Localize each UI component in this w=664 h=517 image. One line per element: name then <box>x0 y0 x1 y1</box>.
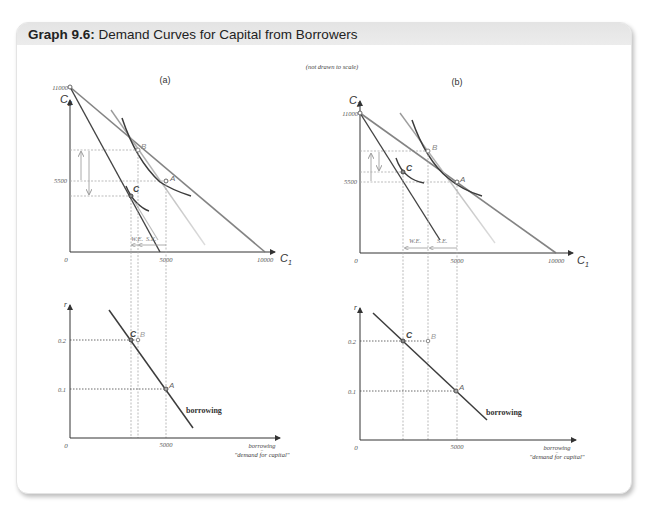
panel-b-label: (b) <box>452 77 463 87</box>
point-c <box>401 170 405 174</box>
borrowing-curve-label: borrowing <box>186 406 222 415</box>
label-a: A <box>169 174 175 183</box>
budget-line-high-rate <box>70 87 160 252</box>
label-c: C <box>130 329 137 339</box>
tick-0.1: 0.1 <box>348 388 356 395</box>
label-c: C <box>406 163 413 173</box>
tick-0: 0 <box>354 257 358 265</box>
tick-0.2: 0.2 <box>58 337 67 344</box>
point-c <box>401 339 405 343</box>
borrowing-curve-label: borrowing <box>486 408 522 417</box>
not-to-scale-note: (not drawn to scale) <box>306 63 359 71</box>
tick-5500: 5500 <box>54 177 68 184</box>
panel-a-label: (a) <box>160 75 171 85</box>
x-axis-label-demand: "demand for capital" <box>530 453 585 460</box>
label-b: B <box>140 330 145 339</box>
point-c <box>129 194 133 198</box>
tick-10000: 10000 <box>548 257 565 264</box>
point-a <box>164 387 168 391</box>
wealth-effect-label: W.E. <box>131 235 143 242</box>
tick-11000: 11000 <box>52 84 69 91</box>
borrowing-demand-curve <box>109 310 193 428</box>
point-a <box>454 389 458 393</box>
point-a <box>455 180 459 184</box>
point-a <box>164 179 168 183</box>
compensated-budget-line <box>111 110 205 245</box>
panel-b-bottom: r 0.2 0.1 0 5000 borrowing C B A borrowi… <box>348 303 585 460</box>
c2-axis-label: C2 <box>349 94 361 108</box>
tick-0: 0 <box>64 442 68 450</box>
c1-axis-label: C1 <box>577 254 589 268</box>
label-c: C <box>133 184 140 194</box>
r-axis-label: r <box>64 300 67 309</box>
label-c: C <box>406 330 413 340</box>
tick-11000: 11000 <box>342 110 359 117</box>
tick-10000: 10000 <box>257 256 274 263</box>
substitution-effect-label: S.E. <box>437 237 448 244</box>
tick-5000: 5000 <box>160 441 174 448</box>
tick-5500: 5500 <box>344 178 358 185</box>
tick-5000: 5000 <box>451 443 465 450</box>
c1-axis-label: C1 <box>280 252 292 266</box>
borrowing-demand-curve <box>373 313 487 420</box>
panel-a-bottom: r 0.2 0.1 0 5000 borrowing C B A borrowi… <box>58 300 290 458</box>
x-axis-label-demand: "demand for capital" <box>235 451 290 458</box>
label-a: A <box>458 383 464 392</box>
panel-b-top: (b) C2 C1 11000 5500 0 5000 10000 W.E. S… <box>342 77 589 440</box>
wealth-effect-label: W.E. <box>409 237 421 244</box>
point-b <box>426 149 430 153</box>
budget-line-low-rate <box>70 87 265 252</box>
tick-0: 0 <box>64 256 68 264</box>
c2-axis-label: C2 <box>60 93 72 107</box>
point-b <box>136 148 140 152</box>
label-b: B <box>432 143 438 152</box>
label-b: B <box>431 332 436 341</box>
substitution-effect-label: S.E. <box>146 235 157 242</box>
endowment-point <box>358 111 362 115</box>
budget-line-c-fade <box>131 196 158 240</box>
tick-0: 0 <box>354 444 358 452</box>
r-axis-label: r <box>354 303 357 312</box>
tick-0.2: 0.2 <box>348 338 357 345</box>
label-a: A <box>459 175 465 184</box>
tick-0.1: 0.1 <box>58 386 66 393</box>
point-b <box>426 339 430 343</box>
diagram-canvas: (not drawn to scale) (a) C2 C1 11000 550… <box>0 0 664 517</box>
label-a: A <box>168 381 174 390</box>
endowment-point <box>68 85 72 89</box>
label-b: B <box>141 142 147 151</box>
